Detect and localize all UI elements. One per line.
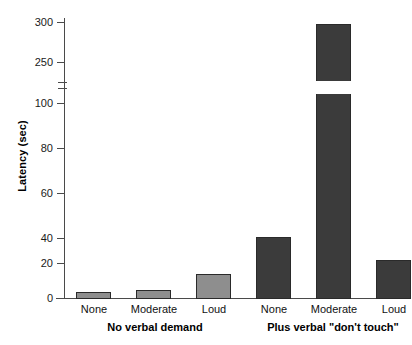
bar-no-verbal-loud xyxy=(196,274,231,299)
y-tick-label-100: 100 xyxy=(35,97,53,109)
y-tick-label-300: 300 xyxy=(35,16,53,28)
y-tick-300 xyxy=(57,22,64,23)
bar-no-verbal-none xyxy=(76,292,111,299)
y-tick-40 xyxy=(57,238,64,239)
y-axis-line xyxy=(64,18,65,299)
y-tick-20 xyxy=(57,263,64,264)
y-tick-250 xyxy=(57,62,64,63)
x-category-label-none-1: None xyxy=(81,303,107,315)
y-tick-60 xyxy=(57,193,64,194)
y-tick-100 xyxy=(57,103,64,104)
y-tick-label-80: 80 xyxy=(41,142,53,154)
bar-no-verbal-moderate xyxy=(136,290,171,299)
y-tick-0 xyxy=(57,298,64,299)
y-tick-80 xyxy=(57,148,64,149)
y-tick-label-20: 20 xyxy=(41,257,53,269)
y-axis-title: Latency (sec) xyxy=(16,96,28,216)
y-tick-label-60: 60 xyxy=(41,187,53,199)
y-tick-label-0: 0 xyxy=(47,292,53,304)
y-axis-break-lower xyxy=(58,88,67,89)
x-group-label-no-verbal-demand: No verbal demand xyxy=(107,321,202,333)
y-tick-label-40: 40 xyxy=(41,232,53,244)
x-category-label-loud-1: Loud xyxy=(202,303,226,315)
bar-axis-break-squiggle xyxy=(316,81,353,94)
bar-plus-verbal-none xyxy=(256,237,291,299)
bar-plus-verbal-moderate xyxy=(316,24,351,299)
plot-area: 300 250 100 80 60 40 20 0 xyxy=(64,18,401,299)
x-category-label-moderate-1: Moderate xyxy=(131,303,177,315)
y-tick-label-250: 250 xyxy=(35,56,53,68)
bar-plus-verbal-loud xyxy=(376,260,411,299)
bar-chart: Latency (sec) 300 250 100 80 60 40 20 0 xyxy=(0,0,412,345)
y-axis-break-upper xyxy=(58,82,67,83)
x-category-label-loud-2: Loud xyxy=(382,303,406,315)
x-group-label-plus-verbal: Plus verbal "don't touch" xyxy=(267,321,399,333)
x-category-label-none-2: None xyxy=(261,303,287,315)
x-category-label-moderate-2: Moderate xyxy=(311,303,357,315)
